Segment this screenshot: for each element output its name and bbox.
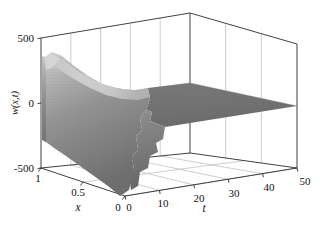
z-axis-title: w(x,t) <box>9 90 21 115</box>
x-axis-title: x <box>74 201 81 213</box>
surface-plot-figure: 500 0 -500 1 0.5 0 0 10 20 30 40 50 x t … <box>0 0 320 229</box>
t-tick-30: 30 <box>229 187 241 199</box>
t-tick-40: 40 <box>264 181 276 193</box>
surface-left-face <box>42 56 46 142</box>
t-tick-50: 50 <box>300 175 312 187</box>
z-tick-500: 500 <box>18 32 35 44</box>
z-tick-0: 0 <box>29 97 35 109</box>
x-tick-0p5: 0.5 <box>71 186 85 198</box>
z-tick-minus-500: -500 <box>14 162 35 174</box>
t-tick-10: 10 <box>158 197 170 209</box>
plot-canvas: 500 0 -500 1 0.5 0 0 10 20 30 40 50 x t … <box>0 0 320 229</box>
t-axis-title: t <box>202 202 206 214</box>
x-tick-0: 0 <box>115 201 121 213</box>
x-tick-1: 1 <box>35 172 41 184</box>
t-tick-0: 0 <box>126 201 132 213</box>
